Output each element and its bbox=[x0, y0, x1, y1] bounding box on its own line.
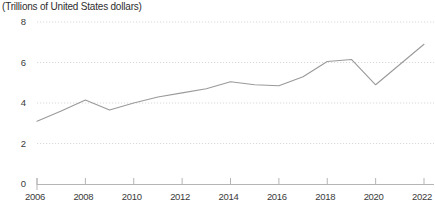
chart-x-tick-label: 2008 bbox=[73, 192, 93, 202]
chart-y-tick-label: 0 bbox=[14, 179, 26, 189]
chart-x-tick-label: 2012 bbox=[170, 192, 190, 202]
chart-x-tick-marks bbox=[37, 178, 424, 185]
chart-y-tick-label: 6 bbox=[14, 58, 26, 68]
chart-x-tick-label: 2022 bbox=[412, 192, 432, 202]
chart-x-tick-label: 2018 bbox=[315, 192, 335, 202]
chart-data-line-series-1 bbox=[37, 44, 424, 121]
chart-y-tick-label: 2 bbox=[14, 139, 26, 149]
chart-x-tick-label: 2010 bbox=[122, 192, 142, 202]
chart-y-tick-label: 8 bbox=[14, 17, 26, 27]
chart-x-tick-label: 2016 bbox=[267, 192, 287, 202]
chart-x-tick-label: 2020 bbox=[364, 192, 384, 202]
chart-plot-area bbox=[0, 0, 435, 209]
chart-y-tick-label: 4 bbox=[14, 98, 26, 108]
chart-x-tick-label: 2006 bbox=[25, 192, 45, 202]
chart-container: (Trillions of United States dollars) 024… bbox=[0, 0, 435, 209]
chart-svg bbox=[0, 0, 435, 209]
chart-x-tick-label: 2014 bbox=[219, 192, 239, 202]
